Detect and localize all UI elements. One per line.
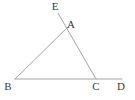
point-label-e: E	[52, 0, 59, 12]
point-label-b: B	[4, 80, 11, 92]
point-label-c: C	[92, 80, 99, 92]
point-label-d: D	[117, 80, 125, 92]
geometry-canvas: E A B C D	[0, 0, 135, 100]
segment-ba-extended	[15, 27, 68, 79]
geometry-figure: E A B C D	[0, 0, 135, 100]
segment-ec	[58, 13, 96, 79]
point-label-a: A	[67, 18, 75, 30]
